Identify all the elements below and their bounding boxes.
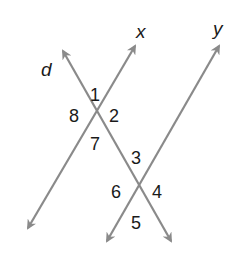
angle-3: 3 xyxy=(131,148,141,168)
angle-2: 2 xyxy=(109,106,119,126)
label-x: x xyxy=(135,21,147,42)
line-d xyxy=(63,51,171,241)
angle-6: 6 xyxy=(111,182,121,202)
angle-7: 7 xyxy=(90,134,100,154)
label-y: y xyxy=(211,18,224,39)
angle-4: 4 xyxy=(152,182,162,202)
line-y xyxy=(107,46,219,241)
angle-5: 5 xyxy=(131,213,141,233)
angle-1: 1 xyxy=(90,85,100,105)
angle-8: 8 xyxy=(69,106,79,126)
transversal-diagram: x d y 1 2 3 4 5 6 7 8 xyxy=(0,0,241,253)
label-d: d xyxy=(41,59,53,80)
